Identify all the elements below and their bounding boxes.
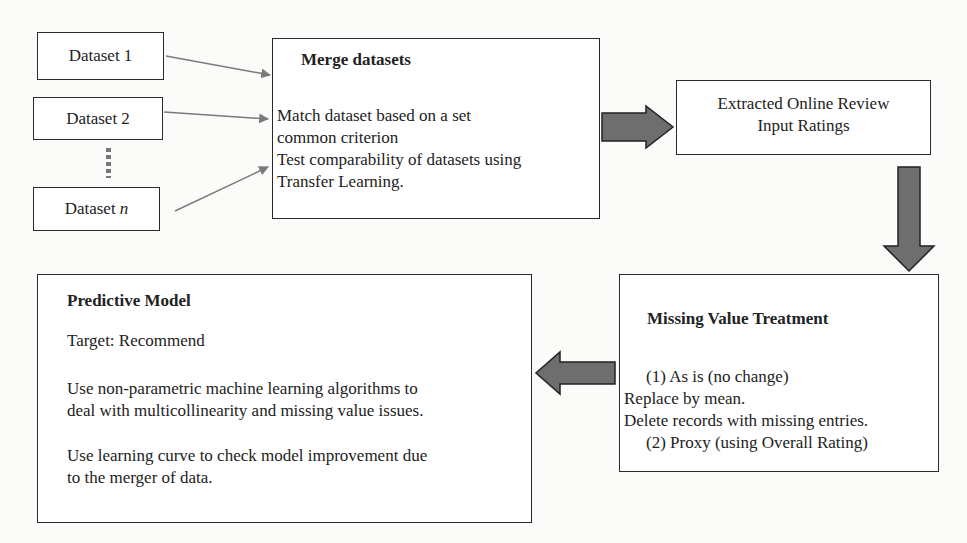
thin-arrow-icon (164, 56, 270, 211)
ellipsis-dots (106, 148, 111, 178)
extracted-ratings-box: Extracted Online Review Input Ratings (676, 80, 931, 155)
predictive-algorithms-text: Use non-parametric machine learning algo… (67, 378, 423, 422)
missing-value-title: Missing Value Treatment (647, 309, 828, 329)
missing-value-box: Missing Value Treatment (1) As is (no ch… (619, 274, 939, 472)
merge-title: Merge datasets (301, 50, 411, 70)
dataset-2-box: Dataset 2 (33, 97, 163, 140)
dataset-n-label: Dataset n (65, 199, 129, 219)
block-arrow-right-icon (602, 106, 673, 148)
merge-description: Match dataset based on a set common crit… (277, 105, 521, 193)
predictive-learning-curve-text: Use learning curve to check model improv… (67, 445, 427, 489)
missing-value-options: (1) As is (no change) Replace by mean. D… (624, 366, 868, 454)
block-arrow-left-icon (536, 352, 615, 394)
predictive-title: Predictive Model (67, 291, 191, 311)
dataset-n-box: Dataset n (33, 187, 160, 231)
dataset-2-label: Dataset 2 (66, 109, 130, 129)
extracted-ratings-label: Extracted Online Review Input Ratings (677, 93, 930, 137)
dataset-1-box: Dataset 1 (37, 32, 164, 80)
block-arrow-down-icon (884, 167, 934, 271)
merge-datasets-box: Merge datasets Match dataset based on a … (272, 38, 600, 219)
predictive-target: Target: Recommend (67, 330, 205, 352)
predictive-model-box: Predictive Model Target: Recommend Use n… (37, 274, 532, 523)
dataset-1-label: Dataset 1 (69, 46, 133, 66)
